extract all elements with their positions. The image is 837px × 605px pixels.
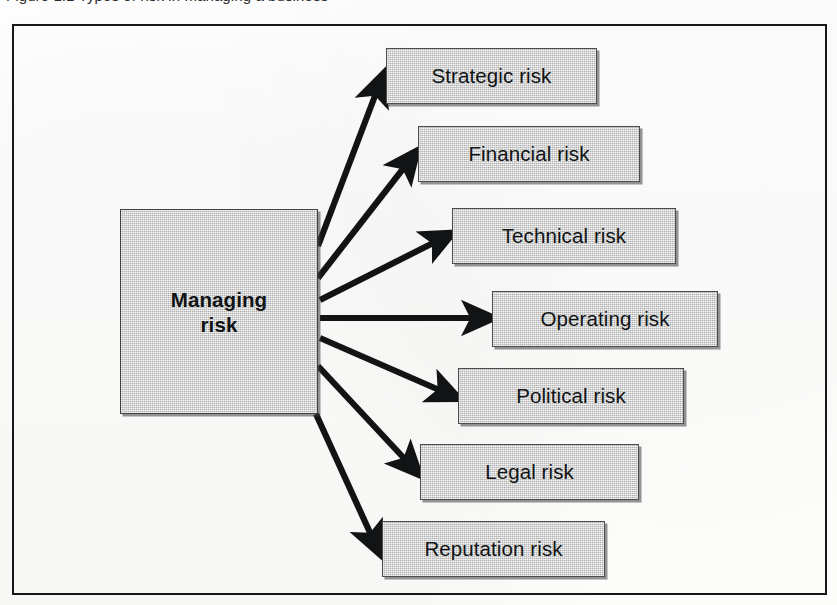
node-label: Financial risk (468, 142, 589, 166)
node-political-risk[interactable]: Political risk (458, 368, 684, 424)
node-label: Legal risk (485, 460, 574, 484)
node-legal-risk[interactable]: Legal risk (420, 444, 639, 500)
node-label: Political risk (516, 384, 626, 408)
node-reputation-risk[interactable]: Reputation risk (382, 521, 605, 577)
node-financial-risk[interactable]: Financial risk (418, 126, 640, 182)
figure-caption-text: Figure 1.1 Types of risk in managing a b… (6, 0, 328, 4)
node-operating-risk[interactable]: Operating risk (492, 291, 718, 347)
node-strategic-risk[interactable]: Strategic risk (386, 48, 597, 104)
node-label: Reputation risk (424, 537, 562, 561)
node-label: Technical risk (502, 224, 626, 248)
figure-caption-strip: Figure 1.1 Types of risk in managing a b… (0, 0, 837, 14)
center-node-label-line1: Managing (171, 287, 267, 312)
node-technical-risk[interactable]: Technical risk (452, 208, 676, 264)
node-managing-risk[interactable]: Managing risk (120, 209, 318, 414)
node-label: Strategic risk (432, 64, 552, 88)
node-label: Operating risk (540, 307, 669, 331)
center-node-label-line2: risk (201, 312, 238, 337)
